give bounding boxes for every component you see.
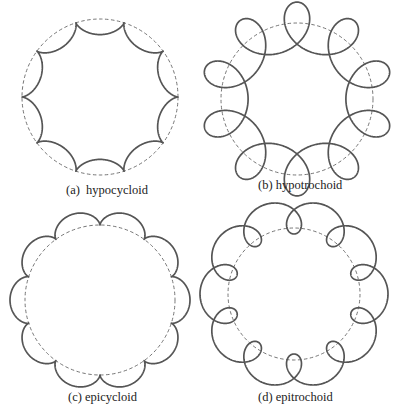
epicycloid-curve xyxy=(10,213,190,387)
panel-b-hypotrochoid xyxy=(204,2,389,196)
panel-d-epitrochoid xyxy=(200,203,388,385)
base-circle-d xyxy=(228,228,360,360)
roulette-curves-figure xyxy=(0,0,395,412)
caption-c: (c) epicycloid xyxy=(68,391,137,404)
hypocycloid-curve xyxy=(22,23,178,171)
base-circle-a xyxy=(22,19,178,175)
base-circle-c xyxy=(25,225,175,375)
caption-a: (a) hypocycloid xyxy=(66,184,148,197)
panel-c-epicycloid xyxy=(10,213,190,387)
panel-a-hypocycloid xyxy=(22,19,178,175)
hypotrochoid-curve xyxy=(204,2,389,196)
caption-b: (b) hypotrochoid xyxy=(258,179,342,192)
caption-d: (d) epitrochoid xyxy=(258,391,333,404)
